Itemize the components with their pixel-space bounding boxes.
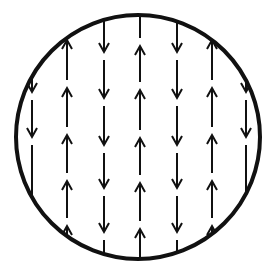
arrow-column-up <box>207 40 217 238</box>
arrow-column-down <box>241 76 251 197</box>
arrow-column-up <box>135 11 145 263</box>
diagram-canvas <box>0 0 270 274</box>
arrow-column-up <box>62 40 72 240</box>
arrow-column-down <box>172 17 182 256</box>
arrow-field <box>27 11 251 263</box>
domain-diagram <box>0 0 270 274</box>
arrow-column-down <box>27 73 37 202</box>
arrow-column-down <box>99 16 109 258</box>
